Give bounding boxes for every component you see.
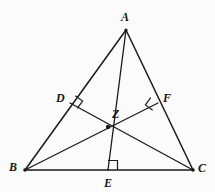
geometry-canvas	[0, 0, 215, 192]
vertex-dot-b	[23, 168, 27, 172]
vertex-dot-c	[191, 168, 195, 172]
geometry-diagram: A B C D E F Z	[0, 0, 215, 192]
point-label-d: D	[56, 92, 65, 104]
point-label-e: E	[104, 177, 112, 189]
altitude-b-to-f	[25, 103, 158, 170]
point-label-a: A	[121, 11, 129, 23]
segment-ac	[126, 30, 193, 170]
orthocenter-dot-z	[106, 125, 110, 129]
altitude-c-to-d	[70, 103, 193, 170]
vertex-dot-a	[124, 28, 127, 31]
point-label-b: B	[9, 161, 17, 173]
point-label-z: Z	[112, 108, 119, 120]
point-label-f: F	[163, 92, 171, 104]
point-label-c: C	[198, 162, 206, 174]
